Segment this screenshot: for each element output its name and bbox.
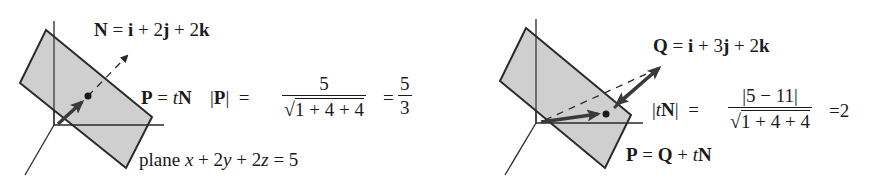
distance-fraction-left: 5 √1 + 4 + 4	[282, 74, 366, 119]
numerator: 5	[317, 74, 331, 95]
N-symbol: N	[94, 19, 108, 40]
magnitude-tN: |tN| =	[652, 100, 699, 119]
foot-point-equation: P = Q + tN	[626, 145, 712, 164]
denominator: 3	[398, 95, 412, 117]
numerator: 5	[398, 74, 412, 95]
result-value: =2	[829, 101, 849, 120]
abs-close: |	[675, 99, 679, 120]
radicand: 1 + 4 + 4	[741, 110, 810, 131]
eq: =	[638, 144, 658, 165]
sqrt-icon: √	[284, 99, 295, 119]
P-symbol: P	[141, 87, 153, 108]
normal-vector-label: N = i + 2j + 2k	[94, 20, 210, 39]
distance-fraction-right: |5 − 11| √1 + 4 + 4	[728, 86, 812, 131]
point-Q-label: Q = i + 3j + 2k	[653, 36, 770, 55]
plus: + 2	[232, 149, 262, 170]
eq: =	[153, 87, 173, 108]
result-eq: =	[383, 88, 394, 107]
plane-equation: plane x + 2y + 2z = 5	[139, 150, 298, 169]
N-symbol: N	[178, 87, 192, 108]
N-symbol: N	[661, 99, 675, 120]
Q-symbol: Q	[658, 144, 673, 165]
rhs: = 5	[269, 149, 299, 170]
projection-equation: P = tN	[141, 88, 192, 107]
plane	[500, 28, 631, 168]
Q-symbol: Q	[653, 35, 668, 56]
plus: + 3	[693, 35, 723, 56]
z-var: z	[261, 149, 268, 170]
plus: + 2	[133, 19, 163, 40]
plus: + 2	[193, 149, 223, 170]
abs-close: |	[225, 87, 229, 108]
eq: =	[688, 99, 699, 120]
P-symbol: P	[214, 87, 226, 108]
k-symbol: k	[759, 35, 770, 56]
x-axis	[25, 125, 54, 175]
N-symbol: N	[698, 144, 712, 165]
P-symbol: P	[626, 144, 638, 165]
radicand: 1 + 4 + 4	[295, 98, 364, 119]
foot-point	[85, 93, 92, 100]
plus: +	[673, 144, 693, 165]
plane	[20, 30, 152, 168]
result-fraction: 5 3	[398, 74, 412, 117]
plane-word: plane	[139, 149, 185, 170]
eq: =	[108, 19, 128, 40]
eq: =	[668, 35, 688, 56]
denominator: √1 + 4 + 4	[728, 107, 812, 131]
x-axis	[505, 123, 536, 175]
sqrt-icon: √	[730, 111, 741, 131]
plus: + 2	[729, 35, 759, 56]
y-var: y	[223, 149, 231, 170]
eq: =	[239, 87, 250, 108]
foot-point	[603, 111, 610, 118]
numerator: |5 − 11|	[740, 86, 800, 107]
plus: + 2	[169, 19, 199, 40]
magnitude-P: |P| =	[210, 88, 249, 107]
denominator: √1 + 4 + 4	[282, 95, 366, 119]
k-symbol: k	[199, 19, 210, 40]
